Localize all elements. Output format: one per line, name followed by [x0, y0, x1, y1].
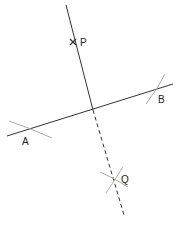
label-p: P: [80, 37, 87, 48]
construction-diagram: P A B Q: [0, 0, 180, 225]
label-a: A: [22, 136, 29, 147]
label-q: Q: [121, 174, 129, 185]
perpendicular-line-dashed: [93, 110, 124, 215]
line-ab: [7, 84, 173, 136]
perpendicular-line-solid: [66, 5, 93, 110]
label-b: B: [158, 94, 165, 105]
